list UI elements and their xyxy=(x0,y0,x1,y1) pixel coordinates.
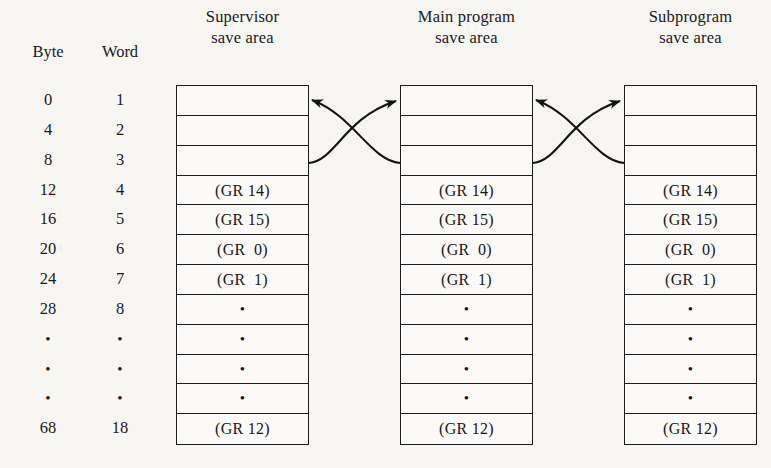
subprogram-header-line2: save area xyxy=(624,27,757,48)
subprogram-save-area-header: Subprogram save area xyxy=(624,6,757,48)
main-program-save-area-row: • xyxy=(401,325,532,355)
byte-offset-cell: • xyxy=(18,354,78,384)
word-number-cell: • xyxy=(90,324,150,354)
supervisor-save-area-header: Supervisor save area xyxy=(176,6,309,48)
byte-offset-cell: 24 xyxy=(18,264,78,294)
byte-offset-cell: 12 xyxy=(18,175,78,205)
byte-offset-cell: 28 xyxy=(18,294,78,324)
byte-offset-cell: • xyxy=(18,324,78,354)
supervisor-save-area-row xyxy=(177,86,308,116)
byte-offset-column: 0481216202428•••68 xyxy=(18,85,78,443)
supervisor-save-area-row: • xyxy=(177,295,308,325)
main-program-save-area-row: (GR 15) xyxy=(401,205,532,235)
main-program-save-area-row: (GR 1) xyxy=(401,265,532,295)
subprogram-save-area-row: (GR 0) xyxy=(625,235,756,265)
supervisor-save-area-row: (GR 12) xyxy=(177,414,308,444)
subprogram-save-area-table: (GR 14)(GR 15)(GR 0)(GR 1)••••(GR 12) xyxy=(624,85,757,445)
word-number-cell: 3 xyxy=(90,145,150,175)
subprogram-save-area-row xyxy=(625,146,756,176)
word-number-cell: 4 xyxy=(90,175,150,205)
supervisor-save-area-row: (GR 15) xyxy=(177,205,308,235)
main-program-save-area-row: (GR 12) xyxy=(401,414,532,444)
supervisor-save-area-row: • xyxy=(177,355,308,385)
word-number-cell: 6 xyxy=(90,234,150,264)
subprogram-save-area-row: • xyxy=(625,295,756,325)
supervisor-forward-pointer-arrow xyxy=(309,101,396,163)
main-program-save-area-row: (GR 0) xyxy=(401,235,532,265)
subprogram-save-area-row: (GR 15) xyxy=(625,205,756,235)
subprogram-save-area-row: (GR 14) xyxy=(625,176,756,206)
main-program-save-area-row: • xyxy=(401,295,532,325)
word-number-cell: • xyxy=(90,383,150,413)
main-back-pointer-arrow xyxy=(536,100,624,163)
main-program-save-area-row xyxy=(401,146,532,176)
subprogram-save-area-row: • xyxy=(625,325,756,355)
word-number-cell: 5 xyxy=(90,204,150,234)
byte-offset-cell: 16 xyxy=(18,204,78,234)
word-number-cell: 8 xyxy=(90,294,150,324)
subprogram-save-area-row xyxy=(625,86,756,116)
word-number-cell: 7 xyxy=(90,264,150,294)
word-column-header: Word xyxy=(90,42,150,62)
main-forward-pointer-arrow xyxy=(533,101,620,163)
word-number-cell: 1 xyxy=(90,85,150,115)
supervisor-save-area-row xyxy=(177,116,308,146)
supervisor-save-area-row xyxy=(177,146,308,176)
byte-offset-cell: 8 xyxy=(18,145,78,175)
supervisor-save-area-row: • xyxy=(177,325,308,355)
subprogram-save-area-row xyxy=(625,116,756,146)
main-program-save-area-row xyxy=(401,86,532,116)
supervisor-save-area-row: • xyxy=(177,384,308,414)
byte-offset-cell: 68 xyxy=(18,413,78,443)
diagram-canvas: Byte Word Supervisor save area Main prog… xyxy=(0,0,771,468)
supervisor-save-area-row: (GR 14) xyxy=(177,176,308,206)
byte-offset-cell: 0 xyxy=(18,85,78,115)
main-program-save-area-row: (GR 14) xyxy=(401,176,532,206)
main-program-save-area-row: • xyxy=(401,355,532,385)
main-program-save-area-row xyxy=(401,116,532,146)
supervisor-save-area-table: (GR 14)(GR 15)(GR 0)(GR 1)••••(GR 12) xyxy=(176,85,309,445)
word-number-cell: • xyxy=(90,354,150,384)
byte-offset-cell: 4 xyxy=(18,115,78,145)
main-header-line1: Main program xyxy=(418,7,515,26)
supervisor-header-line1: Supervisor xyxy=(206,7,280,26)
subprogram-save-area-row: (GR 12) xyxy=(625,414,756,444)
word-number-cell: 18 xyxy=(90,413,150,443)
byte-column-header: Byte xyxy=(18,42,78,62)
subprogram-save-area-row: (GR 1) xyxy=(625,265,756,295)
subprogram-header-line1: Subprogram xyxy=(649,7,733,26)
main-program-save-area-table: (GR 14)(GR 15)(GR 0)(GR 1)••••(GR 12) xyxy=(400,85,533,445)
subprogram-save-area-row: • xyxy=(625,384,756,414)
main-header-line2: save area xyxy=(400,27,533,48)
byte-offset-cell: 20 xyxy=(18,234,78,264)
word-number-column: 12345678•••18 xyxy=(90,85,150,443)
main-program-save-area-header: Main program save area xyxy=(400,6,533,48)
byte-offset-cell: • xyxy=(18,383,78,413)
subprogram-save-area-row: • xyxy=(625,355,756,385)
supervisor-save-area-row: (GR 0) xyxy=(177,235,308,265)
word-number-cell: 2 xyxy=(90,115,150,145)
main-program-save-area-row: • xyxy=(401,384,532,414)
supervisor-back-pointer-arrow xyxy=(312,100,400,163)
supervisor-save-area-row: (GR 1) xyxy=(177,265,308,295)
supervisor-header-line2: save area xyxy=(176,27,309,48)
